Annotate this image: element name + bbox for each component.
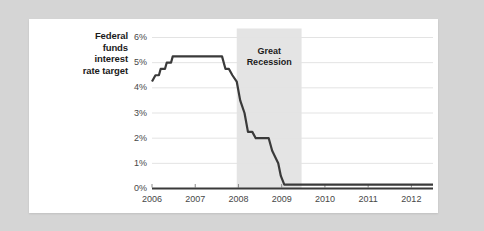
x-tick-label-2011: 2011 <box>348 195 388 204</box>
y-tick-label-2pct: 2% <box>125 134 147 143</box>
x-tick-label-2012: 2012 <box>391 195 431 204</box>
y-tick-label-0pct: 0% <box>125 184 147 193</box>
y-axis-title-line-4: rate target <box>62 65 128 77</box>
x-tick-label-2008: 2008 <box>218 195 258 204</box>
x-tick-label-2010: 2010 <box>305 195 345 204</box>
y-axis-title-line-1: Federal <box>62 30 128 42</box>
y-tick-label-4pct: 4% <box>125 83 147 92</box>
y-tick-label-1pct: 1% <box>125 159 147 168</box>
x-tick-label-2007: 2007 <box>175 195 215 204</box>
screenshot-root: Federal funds interest rate target 0%1%2… <box>0 0 484 231</box>
x-tick-label-2009: 2009 <box>262 195 302 204</box>
great-recession-annotation: Great Recession <box>224 46 314 68</box>
great-recession-line-1: Great <box>224 46 314 57</box>
great-recession-line-2: Recession <box>224 57 314 68</box>
y-tick-label-6pct: 6% <box>125 33 147 42</box>
y-tick-label-3pct: 3% <box>125 109 147 118</box>
x-tick-label-2006: 2006 <box>132 195 172 204</box>
y-axis-title: Federal funds interest rate target <box>62 30 128 76</box>
y-axis-title-line-3: interest <box>62 53 128 65</box>
y-axis-title-line-2: funds <box>62 42 128 54</box>
y-tick-label-5pct: 5% <box>125 58 147 67</box>
